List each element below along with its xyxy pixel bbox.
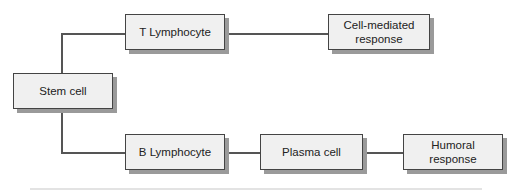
connector-b-to-plasma (224, 152, 260, 154)
node-plasma-cell: Plasma cell (260, 134, 363, 170)
connector-stem-vertical-up (61, 34, 63, 74)
connector-t-to-cell-mediated (224, 33, 328, 35)
node-cell-mediated-response: Cell-mediated response (328, 14, 430, 50)
connector-stem-vertical-down (61, 109, 63, 154)
node-t-lymphocyte: T Lymphocyte (125, 14, 225, 50)
node-b-lymphocyte: B Lymphocyte (125, 134, 225, 170)
node-stem-cell: Stem cell (13, 73, 113, 109)
connector-plasma-to-humoral (363, 152, 403, 154)
connector-to-t-lymphocyte (61, 33, 125, 35)
bottom-divider (30, 188, 482, 190)
node-humoral-response: Humoral response (403, 134, 503, 170)
connector-to-b-lymphocyte (61, 152, 125, 154)
